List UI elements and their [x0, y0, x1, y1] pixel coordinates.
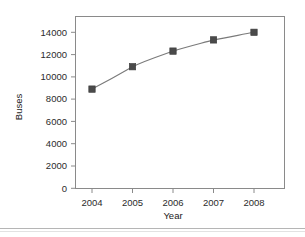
plot-frame: [76, 17, 285, 189]
y-tick-label: 10000: [41, 71, 67, 82]
footer-divider-secondary: [0, 231, 305, 232]
series-line-buses: [92, 32, 254, 89]
footer-divider: [0, 228, 305, 229]
y-tick-label: 6000: [46, 116, 67, 127]
y-tick-label: 8000: [46, 93, 67, 104]
data-point-markers: [89, 29, 257, 92]
y-axis-tick-labels: 14000 12000 10000 8000 6000 4000 2000 0: [41, 27, 67, 194]
y-tick-label: 2000: [46, 160, 67, 171]
chart-figure: 14000 12000 10000 8000 6000 4000 2000 0 …: [0, 0, 305, 237]
x-axis-tick-labels: 2004 2005 2006 2007 2008: [81, 197, 264, 208]
x-axis-title: Year: [163, 210, 182, 221]
y-tick-label: 12000: [41, 49, 67, 60]
x-tick-label: 2007: [203, 197, 224, 208]
y-tick-label: 14000: [41, 27, 67, 38]
data-point-2006: [170, 48, 176, 54]
y-axis-ticks: [71, 32, 76, 188]
x-tick-label: 2008: [243, 197, 264, 208]
x-tick-label: 2004: [81, 197, 102, 208]
data-point-2004: [89, 86, 95, 92]
x-tick-label: 2005: [122, 197, 143, 208]
data-point-2008: [251, 29, 257, 35]
x-axis-ticks: [92, 189, 254, 194]
y-tick-label: 0: [62, 183, 67, 194]
data-point-2005: [129, 64, 135, 70]
data-point-2007: [210, 37, 216, 43]
y-tick-label: 4000: [46, 138, 67, 149]
x-tick-label: 2006: [162, 197, 183, 208]
line-chart: 14000 12000 10000 8000 6000 4000 2000 0 …: [0, 0, 305, 237]
y-axis-title: Buses: [13, 94, 24, 121]
